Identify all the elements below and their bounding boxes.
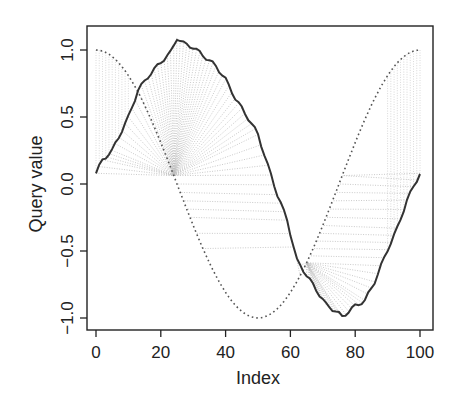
y-tick-label: 0.5 [58, 105, 77, 129]
x-tick-label: 80 [346, 343, 365, 362]
y-tick-label: 0.0 [58, 172, 77, 196]
dtw-alignment-chart: 020406080100 −1.0−0.50.00.51.0 Index Que… [0, 0, 459, 404]
y-tick-label: −0.5 [58, 234, 77, 268]
x-axis-label: Index [236, 368, 280, 388]
x-tick-label: 100 [406, 343, 434, 362]
y-tick-label: 1.0 [58, 38, 77, 62]
x-tick-label: 0 [91, 343, 100, 362]
reference-series [96, 50, 420, 318]
x-tick-label: 40 [216, 343, 235, 362]
y-axis: −1.0−0.50.00.51.0 [58, 38, 87, 335]
y-tick-label: −1.0 [58, 301, 77, 335]
query-series [96, 40, 420, 316]
y-axis-label: Query value [26, 135, 46, 232]
x-axis: 020406080100 [91, 330, 434, 362]
x-tick-label: 20 [151, 343, 170, 362]
x-tick-label: 60 [281, 343, 300, 362]
